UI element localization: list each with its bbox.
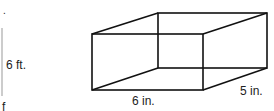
partial-bottom-text: f bbox=[2, 100, 5, 111]
depth-label: 5 in. bbox=[240, 84, 263, 98]
box-edge-top-right bbox=[203, 13, 267, 34]
box-edge-top-left bbox=[92, 13, 158, 34]
rectangular-box bbox=[92, 13, 267, 90]
height-label: 6 ft. bbox=[6, 58, 26, 72]
box-back-face bbox=[158, 13, 267, 68]
box-edge-bottom-left bbox=[92, 68, 158, 90]
box-front-face bbox=[92, 34, 203, 90]
length-label: 6 in. bbox=[132, 94, 155, 108]
top-mark: . bbox=[3, 5, 6, 16]
